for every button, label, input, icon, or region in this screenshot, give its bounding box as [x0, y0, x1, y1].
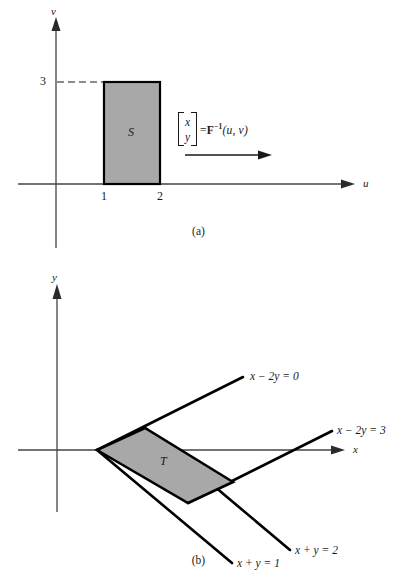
y-axis-label: y [52, 272, 57, 283]
u-axis-label: u [363, 178, 369, 189]
panel-b-graphics [0, 250, 397, 575]
panel-b-xy-plane: y x T x − 2y = 0 x − 2y = 3 x + y = 2 x … [0, 250, 397, 575]
caption-b: (b) [0, 555, 397, 567]
line-label-x-minus-2y-3: x − 2y = 3 [337, 425, 386, 437]
y-axis [53, 284, 62, 512]
figure-root: v u 3 1 2 S x y =F−1(u, v) (a) [0, 0, 397, 575]
formula-right-hand-side: =F−1(u, v) [200, 122, 248, 136]
bracket-right [191, 112, 197, 146]
function-name-f: F [207, 124, 214, 136]
x-axis-label: x [353, 444, 358, 455]
u-axis [18, 180, 355, 189]
mapping-arrow [185, 151, 272, 160]
vector-entry-x: x [185, 114, 190, 129]
v-tick-3: 3 [40, 75, 46, 87]
vector-entry-y: y [185, 129, 190, 144]
transform-formula: x y =F−1(u, v) [178, 112, 248, 146]
v-axis [52, 17, 61, 248]
line-label-x-minus-2y-0: x − 2y = 0 [250, 371, 299, 383]
function-arguments: (u, v) [222, 124, 247, 136]
u-tick-1: 1 [101, 190, 107, 202]
u-tick-2: 2 [157, 190, 163, 202]
equals-sign: = [200, 124, 207, 136]
bracket-left [178, 112, 184, 146]
region-label-s: S [128, 126, 134, 138]
v-axis-label: v [51, 6, 56, 17]
column-vector-xy: x y [178, 112, 197, 146]
panel-a-uv-plane: v u 3 1 2 S x y =F−1(u, v) (a) [0, 0, 397, 250]
caption-a: (a) [0, 226, 397, 238]
region-label-t: T [160, 455, 167, 467]
